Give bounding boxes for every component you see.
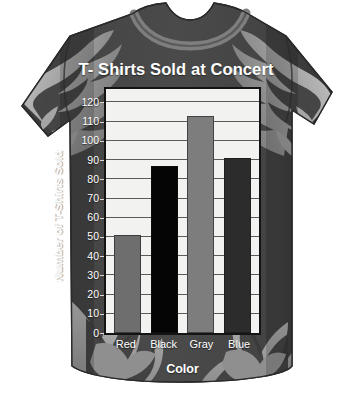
screenshot-canvas: T- Shirts Sold at Concert Number of T-Sh… (0, 0, 352, 416)
bar-slot (146, 89, 183, 333)
bar-gray (187, 116, 214, 333)
y-tick-mark (100, 141, 104, 142)
plot-area (104, 87, 261, 335)
y-tick-label: 10 (71, 308, 99, 319)
y-tick-label: 110 (71, 116, 99, 127)
plot-inner (106, 89, 259, 333)
y-tick-mark (100, 160, 104, 161)
bar-slot (219, 89, 256, 333)
x-tick-label-gray: Gray (183, 338, 221, 350)
bar-series (106, 89, 259, 333)
y-tick-mark (100, 179, 104, 180)
bar-black (151, 166, 178, 333)
chart-title: T- Shirts Sold at Concert (56, 60, 296, 79)
y-tick-mark (100, 275, 104, 276)
y-tick-label: 60 (71, 212, 99, 223)
x-tick-label-red: Red (107, 338, 145, 350)
y-tick-mark (100, 237, 104, 238)
y-tick-mark (100, 122, 104, 123)
y-tick-mark (100, 218, 104, 219)
y-tick-mark (100, 256, 104, 257)
y-tick-label: 120 (71, 97, 99, 108)
y-tick-label: 80 (71, 174, 99, 185)
x-axis-label: Color (104, 362, 261, 376)
y-tick-mark (100, 314, 104, 315)
y-tick-mark (100, 102, 104, 103)
y-tick-label: 90 (71, 155, 99, 166)
y-tick-label: 30 (71, 270, 99, 281)
x-tick-label-black: Black (145, 338, 183, 350)
bar-slot (109, 89, 146, 333)
y-tick-label: 70 (71, 193, 99, 204)
bar-slot (183, 89, 220, 333)
x-axis-ticks: RedBlackGrayBlue (104, 338, 261, 350)
y-tick-label: 0 (71, 328, 99, 339)
y-tick-mark (100, 333, 104, 334)
x-tick-label-blue: Blue (220, 338, 258, 350)
y-tick-mark (100, 199, 104, 200)
y-tick-label: 100 (71, 135, 99, 146)
y-tick-mark (100, 295, 104, 296)
bar-blue (224, 158, 251, 333)
y-tick-label: 40 (71, 251, 99, 262)
y-tick-label: 20 (71, 289, 99, 300)
y-tick-label: 50 (71, 231, 99, 242)
bar-red (114, 235, 141, 333)
y-axis-label: Number of T-Shirts Sold (52, 136, 64, 296)
